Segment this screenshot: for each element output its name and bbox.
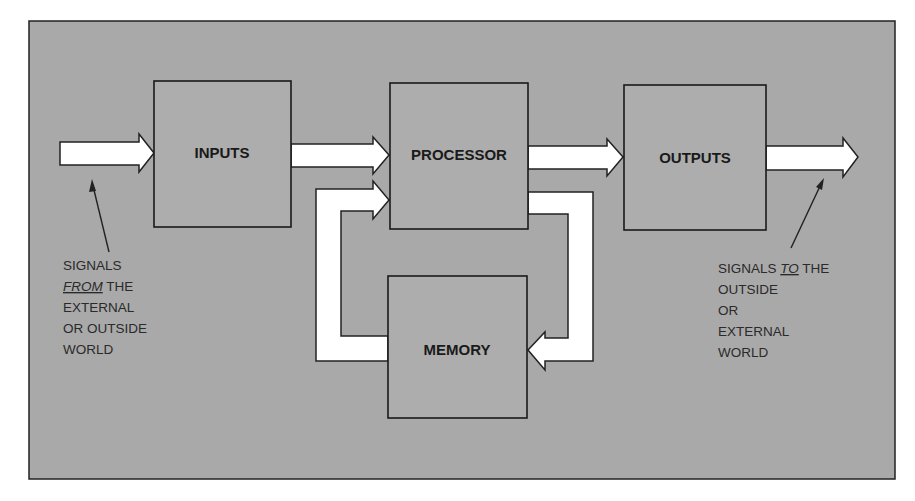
left-note-line-2: FROM THE — [63, 279, 133, 294]
right-note-line-2: OUTSIDE — [718, 282, 778, 297]
left-note-line-1: SIGNALS — [63, 258, 122, 273]
memory-block: MEMORY — [388, 276, 527, 418]
inputs-label: INPUTS — [194, 144, 249, 161]
processor-block: PROCESSOR — [390, 83, 528, 229]
right-note-line-3: OR — [718, 303, 739, 318]
left-note-line-3: EXTERNAL — [63, 300, 135, 315]
block-diagram: INPUTS PROCESSOR OUTPUTS MEMORY SIGNALS … — [0, 0, 915, 501]
inputs-block: INPUTS — [154, 81, 291, 227]
outputs-block: OUTPUTS — [624, 85, 766, 230]
right-note-line-4: EXTERNAL — [718, 324, 790, 339]
memory-label: MEMORY — [424, 341, 491, 358]
left-note-line-5: WORLD — [63, 342, 114, 357]
right-note-line-5: WORLD — [718, 345, 769, 360]
left-note-line-4: OR OUTSIDE — [63, 321, 147, 336]
right-note-line-1: SIGNALS TO THE — [718, 261, 829, 276]
processor-label: PROCESSOR — [411, 146, 507, 163]
outputs-label: OUTPUTS — [659, 149, 731, 166]
